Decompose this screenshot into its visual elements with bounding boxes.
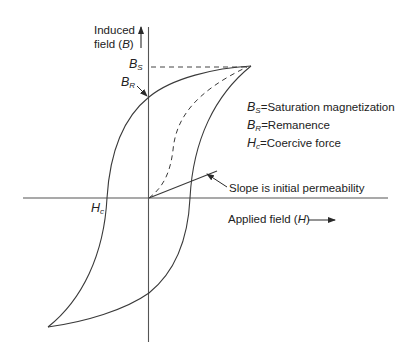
hysteresis-diagram: Induced field (B) BS BR Hc BS=Saturation…	[0, 0, 409, 360]
h-axis-label: Applied field (H)	[228, 213, 310, 226]
legend-item-coercive-force: Hc=Coercive force	[247, 136, 395, 154]
remanence-marker-label: BR	[121, 76, 135, 92]
diagram-canvas	[0, 0, 409, 360]
legend-item-remanence: BR=Remanence	[247, 118, 395, 136]
hysteresis-descending-branch	[48, 66, 251, 327]
slope-annotation-label: Slope is initial permeability	[229, 182, 365, 195]
b-axis-label-line1: Induced	[94, 24, 135, 37]
hysteresis-ascending-branch	[48, 66, 251, 327]
saturation-marker-label: BS	[129, 58, 143, 74]
initial-permeability-slope-line	[149, 171, 217, 198]
b-axis-label: Induced field (B)	[94, 24, 135, 51]
legend-item-saturation: BS=Saturation magnetization	[247, 100, 395, 118]
slope-annotation-arrow-icon	[207, 174, 227, 187]
coercive-force-marker-label: Hc	[91, 202, 104, 218]
remanence-arrow-icon	[137, 86, 147, 96]
legend: BS=Saturation magnetization BR=Remanence…	[247, 100, 395, 154]
b-axis-label-line2: field (B)	[94, 38, 135, 51]
